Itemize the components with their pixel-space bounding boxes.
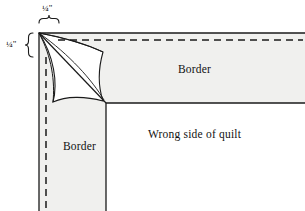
diagram-canvas: ¼" ¼" Border Border Wrong side of quilt: [0, 0, 305, 211]
measurement-label-top: ¼": [42, 4, 52, 13]
brace-top-icon: [39, 15, 59, 23]
border-label-top: Border: [178, 63, 211, 75]
measurement-label-left: ¼": [6, 40, 16, 49]
quilt-corner-diagram: [0, 0, 305, 211]
border-label-left: Border: [63, 140, 96, 152]
wrong-side-label: Wrong side of quilt: [148, 128, 241, 140]
brace-left-icon: [25, 33, 33, 57]
